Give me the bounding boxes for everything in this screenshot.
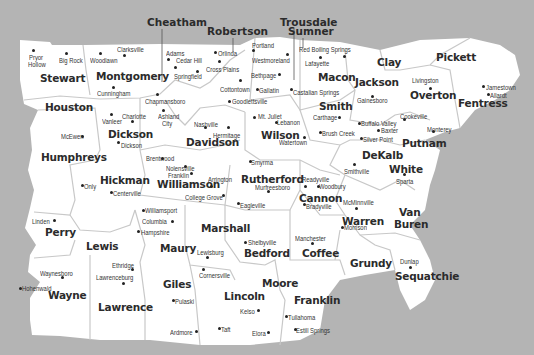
- town-label: Dunlap: [400, 258, 419, 265]
- town-label: Baxter: [381, 127, 398, 134]
- county-map: Cheatham Robertson Sumner Trousdale Stew…: [0, 0, 534, 355]
- town-label: Lawrenceburg: [96, 274, 133, 281]
- town-marker-icon: [81, 184, 84, 187]
- county-label: Buren: [394, 219, 428, 230]
- town-marker-icon: [218, 60, 221, 63]
- town-marker-icon: [195, 330, 198, 333]
- county-label: Bedford: [244, 248, 290, 259]
- county-label: Montgomery: [96, 71, 169, 82]
- town-marker-icon: [358, 122, 361, 125]
- town-label: Centerville: [113, 190, 141, 197]
- town-label: Cottontown: [220, 86, 250, 93]
- town-label: Portland: [252, 42, 274, 49]
- town-marker-icon: [237, 202, 240, 205]
- county-label: Lawrence: [98, 302, 153, 313]
- town-label: Murfreesboro: [255, 184, 290, 191]
- town-marker-icon: [482, 85, 485, 88]
- county-label: Smith: [319, 101, 353, 112]
- county-label: Macon: [318, 72, 355, 83]
- town-marker-icon: [117, 141, 120, 144]
- town-marker-icon: [275, 121, 278, 124]
- label-cheatham: Cheatham: [147, 17, 207, 28]
- town-marker-icon: [252, 49, 255, 52]
- county-label: Moore: [262, 278, 298, 289]
- town-label: Woodlawn: [90, 57, 117, 64]
- town-label: Cross Plains: [206, 66, 239, 73]
- town-marker-icon: [156, 93, 159, 96]
- town-label: Franklin: [168, 172, 189, 179]
- town-marker-icon: [142, 209, 145, 212]
- town-label: City: [162, 120, 172, 127]
- county-label: Clay: [377, 57, 401, 68]
- town-marker-icon: [244, 241, 247, 244]
- town-label: Cunningham: [97, 90, 130, 97]
- county-label: Wayne: [48, 290, 86, 301]
- town-marker-icon: [112, 86, 115, 89]
- town-label: Estill Springs: [296, 327, 330, 334]
- town-marker-icon: [171, 220, 174, 223]
- town-label: Linden: [32, 218, 50, 225]
- town-marker-icon: [32, 49, 35, 52]
- label-trousdale: Trousdale: [280, 17, 337, 28]
- town-marker-icon: [110, 113, 113, 116]
- town-label: McMinnville: [343, 199, 374, 206]
- town-marker-icon: [131, 120, 134, 123]
- town-label: Silver Point: [363, 136, 393, 143]
- town-marker-icon: [184, 165, 187, 168]
- county-label: Coffee: [302, 248, 339, 259]
- town-marker-icon: [174, 66, 177, 69]
- town-marker-icon: [290, 88, 293, 91]
- town-label: Red Boiling Springs: [299, 46, 351, 53]
- town-marker-icon: [257, 309, 260, 312]
- town-marker-icon: [190, 172, 193, 175]
- town-label: Ardmore: [170, 329, 193, 336]
- county-label: Humphreys: [41, 152, 107, 163]
- town-marker-icon: [110, 191, 113, 194]
- county-label: Stewart: [40, 73, 85, 84]
- county-label: Maury: [160, 243, 196, 254]
- town-marker-icon: [123, 54, 126, 57]
- county-label: Marshall: [201, 223, 250, 234]
- town-marker-icon: [285, 315, 288, 318]
- town-label: Columbia: [142, 218, 167, 225]
- town-marker-icon: [218, 327, 221, 330]
- town-label: Woodbury: [319, 183, 346, 190]
- town-marker-icon: [317, 185, 320, 188]
- town-marker-icon: [294, 328, 297, 331]
- town-marker-icon: [338, 116, 341, 119]
- town-label: Westmoreland: [252, 57, 290, 64]
- town-label: Morrison: [344, 224, 367, 231]
- town-label: Carthage: [313, 114, 337, 121]
- town-label: Hampshire: [141, 229, 170, 236]
- town-marker-icon: [487, 93, 490, 96]
- town-marker-icon: [81, 135, 84, 138]
- town-label: Livingston: [412, 77, 439, 84]
- town-label: Dickson: [121, 142, 142, 149]
- town-marker-icon: [319, 131, 322, 134]
- town-marker-icon: [228, 100, 231, 103]
- town-label: Smyrma: [251, 159, 273, 166]
- town-marker-icon: [99, 52, 102, 55]
- town-marker-icon: [267, 190, 270, 193]
- town-label: Tullahoma: [288, 314, 315, 321]
- town-label: Kelso: [240, 308, 255, 315]
- town-label: Only: [84, 183, 96, 190]
- town-label: Bradyville: [306, 203, 332, 210]
- town-marker-icon: [137, 230, 140, 233]
- county-label: Putnam: [402, 138, 447, 149]
- town-marker-icon: [360, 137, 363, 140]
- town-label: Chapmansboro: [145, 98, 185, 105]
- town-marker-icon: [249, 160, 252, 163]
- town-label: Vanleer: [102, 118, 122, 125]
- county-label: DeKalb: [362, 150, 403, 161]
- town-marker-icon: [131, 268, 134, 271]
- town-marker-icon: [319, 56, 322, 59]
- county-label: Pickett: [436, 52, 476, 63]
- town-marker-icon: [429, 87, 432, 90]
- town-marker-icon: [61, 276, 64, 279]
- town-marker-icon: [167, 58, 170, 61]
- county-label: Lincoln: [224, 291, 265, 302]
- county-label: Hickman: [100, 175, 150, 186]
- town-marker-icon: [403, 118, 406, 121]
- town-marker-icon: [341, 226, 344, 229]
